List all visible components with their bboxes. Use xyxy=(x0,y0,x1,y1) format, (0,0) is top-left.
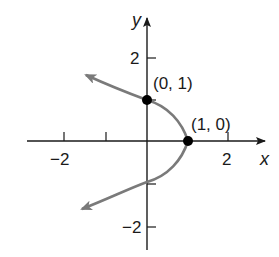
x-axis-label: x xyxy=(259,149,270,169)
point-0-1 xyxy=(142,95,152,105)
y-axis-label: y xyxy=(130,10,142,30)
x-tick-label-neg2: −2 xyxy=(50,150,69,169)
x-tick-label-2: 2 xyxy=(222,150,231,169)
point-1-0 xyxy=(183,136,193,146)
y-tick-label-2: 2 xyxy=(130,49,139,68)
parabola-graph: −2 2 2 −2 x y (0, 1) (1, 0) xyxy=(0,0,279,257)
y-tick-label-neg2: −2 xyxy=(122,218,141,237)
point-label-1-0: (1, 0) xyxy=(191,115,231,134)
point-label-0-1: (0, 1) xyxy=(153,74,193,93)
parabola-lower-branch xyxy=(82,141,188,209)
